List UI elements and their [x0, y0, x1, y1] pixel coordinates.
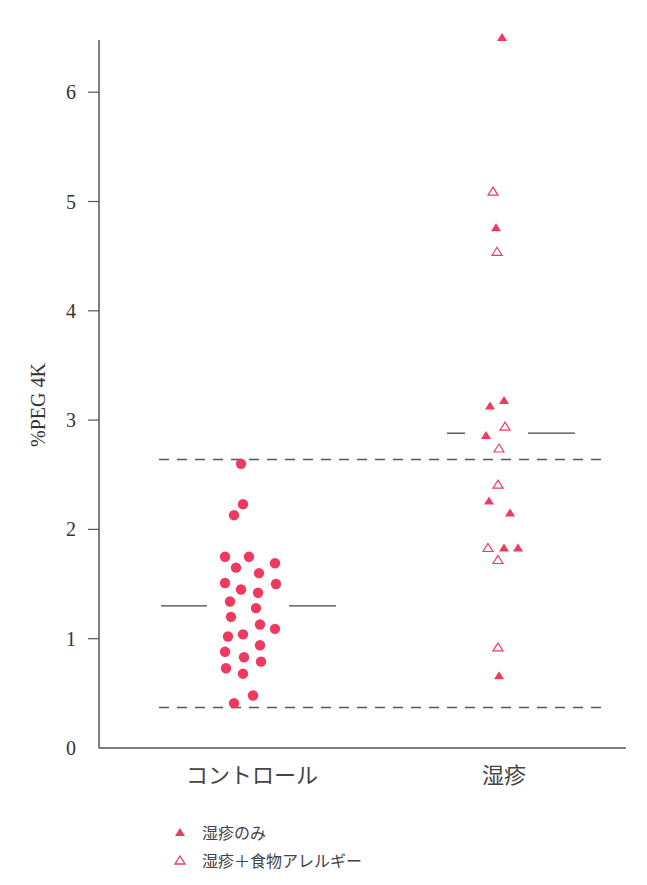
legend: 湿疹のみ 湿疹＋食物アレルギー — [172, 818, 362, 874]
open-triangle-icon — [172, 853, 188, 867]
data-point — [493, 480, 503, 488]
data-point — [271, 579, 281, 589]
data-point — [494, 444, 504, 452]
data-point — [221, 663, 231, 673]
data-point — [251, 603, 261, 613]
axes: 0123456 — [66, 40, 626, 759]
data-point — [484, 496, 494, 504]
data-point — [239, 652, 249, 662]
y-tick-label: 1 — [66, 628, 76, 650]
data-point — [492, 247, 502, 255]
data-point — [248, 690, 258, 700]
data-point — [513, 543, 523, 551]
data-point — [238, 668, 248, 678]
data-point — [493, 556, 503, 564]
data-point — [500, 422, 510, 430]
filled-triangle-icon — [172, 825, 188, 839]
data-point — [236, 584, 246, 594]
legend-label: 湿疹のみ — [202, 820, 266, 844]
data-point — [226, 612, 236, 622]
data-point — [220, 552, 230, 562]
data-point — [494, 671, 504, 679]
data-point — [220, 647, 230, 657]
y-tick-label: 3 — [66, 409, 76, 431]
data-point — [505, 509, 515, 517]
data-point — [499, 396, 509, 404]
data-points — [220, 33, 523, 708]
y-tick-label: 6 — [66, 81, 76, 103]
data-point — [229, 698, 239, 708]
data-point — [270, 624, 280, 634]
y-tick-label: 2 — [66, 518, 76, 540]
data-point — [493, 643, 503, 651]
scatter-chart: 0123456 %PEG 4K コントロール 湿疹 — [0, 0, 647, 810]
legend-label: 湿疹＋食物アレルギー — [202, 848, 362, 872]
data-point — [238, 499, 248, 509]
category-label-eczema: 湿疹 — [482, 763, 526, 788]
y-ticks: 0123456 — [66, 81, 99, 759]
data-point — [229, 510, 239, 520]
data-point — [491, 223, 501, 231]
data-point — [270, 558, 280, 568]
data-point — [225, 596, 235, 606]
data-point — [244, 552, 254, 562]
data-point — [499, 543, 509, 551]
data-point — [254, 568, 264, 578]
data-point — [497, 33, 507, 41]
data-point — [483, 543, 493, 551]
data-point — [238, 629, 248, 639]
legend-item-eczema-only: 湿疹のみ — [172, 818, 362, 846]
data-point — [488, 187, 498, 195]
category-label-control: コントロール — [186, 763, 318, 788]
y-tick-label: 5 — [66, 191, 76, 213]
data-point — [255, 619, 265, 629]
data-point — [253, 588, 263, 598]
y-tick-label: 4 — [66, 300, 76, 322]
data-point — [255, 640, 265, 650]
data-point — [236, 459, 246, 469]
data-point — [481, 431, 491, 439]
data-point — [220, 578, 230, 588]
legend-item-eczema-food-allergy: 湿疹＋食物アレルギー — [172, 846, 362, 874]
data-point — [485, 401, 495, 409]
y-axis-label: %PEG 4K — [27, 363, 49, 447]
y-tick-label: 0 — [66, 737, 76, 759]
data-point — [231, 562, 241, 572]
data-point — [256, 656, 266, 666]
data-point — [223, 631, 233, 641]
